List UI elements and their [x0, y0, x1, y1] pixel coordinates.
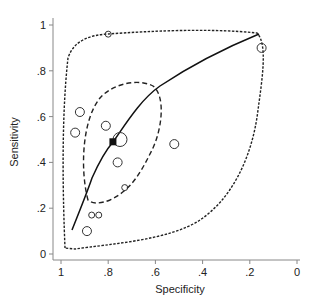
y-axis-title: Sensitivity: [8, 117, 20, 167]
x-tick-label: 0: [294, 266, 300, 278]
study-point: [101, 121, 110, 130]
y-tick-label: .2: [37, 202, 46, 214]
x-axis-ticks: 1.8.6.4.20: [58, 260, 300, 278]
y-tick-label: .8: [37, 65, 46, 77]
y-tick-label: .6: [37, 111, 46, 123]
x-tick-label: .8: [104, 266, 113, 278]
y-tick-label: 0: [40, 248, 46, 260]
summary-point: [109, 138, 116, 145]
x-tick-label: .6: [151, 266, 160, 278]
sroc-chart: 0.2.4.6.81 1.8.6.4.20 Specificity Sensit…: [0, 0, 318, 306]
y-axis-ticks: 0.2.4.6.81: [37, 19, 53, 260]
plot-area: 0.2.4.6.81 1.8.6.4.20 Specificity Sensit…: [0, 0, 318, 306]
x-tick-label: .4: [198, 266, 207, 278]
study-point: [82, 227, 91, 236]
study-point: [75, 108, 84, 117]
study-point: [122, 185, 128, 191]
confidence-region: [84, 82, 162, 203]
study-points: [71, 31, 266, 235]
prediction-region: [63, 30, 263, 249]
x-axis-title: Specificity: [155, 283, 205, 295]
study-point: [113, 158, 122, 167]
study-point: [96, 212, 102, 218]
y-tick-label: .4: [37, 156, 46, 168]
study-point: [170, 140, 179, 149]
x-tick-label: .2: [245, 266, 254, 278]
sroc-curve: [72, 34, 259, 230]
x-tick-label: 1: [58, 266, 64, 278]
summary-point-marker: [109, 138, 116, 145]
y-tick-label: 1: [40, 19, 46, 31]
study-point: [89, 212, 95, 218]
study-point: [71, 128, 80, 137]
